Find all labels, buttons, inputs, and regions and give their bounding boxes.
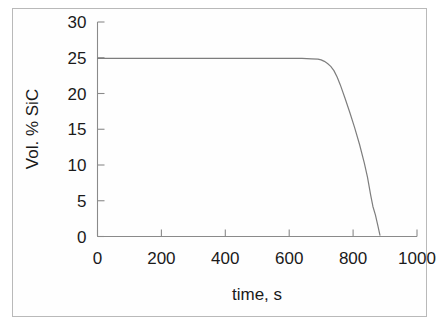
x-tick-label: 400 bbox=[211, 249, 239, 268]
y-tick-label: 10 bbox=[68, 156, 87, 175]
data-series-group bbox=[98, 58, 380, 235]
y-tick-label: 20 bbox=[68, 85, 87, 104]
x-tick-label: 0 bbox=[93, 249, 102, 268]
data-series-line bbox=[98, 58, 380, 235]
y-axis-title: Vol. % SiC bbox=[23, 89, 42, 169]
x-axis-title: time, s bbox=[232, 285, 282, 304]
y-tick-label: 5 bbox=[77, 192, 86, 211]
x-tick-label: 600 bbox=[275, 249, 303, 268]
x-tick-label: 800 bbox=[339, 249, 367, 268]
y-axis-ticks bbox=[98, 22, 105, 237]
x-axis-tick-labels: 02004006008001000 bbox=[93, 249, 436, 268]
x-tick-label: 200 bbox=[147, 249, 175, 268]
x-axis-ticks bbox=[98, 230, 418, 237]
line-chart: 051015202530 02004006008001000 time, s V… bbox=[0, 0, 441, 326]
y-tick-label: 15 bbox=[68, 120, 87, 139]
y-axis-tick-labels: 051015202530 bbox=[68, 13, 87, 247]
y-tick-label: 0 bbox=[77, 228, 86, 247]
y-tick-label: 30 bbox=[68, 13, 87, 32]
axes-group bbox=[98, 22, 418, 237]
x-tick-label: 1000 bbox=[398, 249, 436, 268]
figure-container: 051015202530 02004006008001000 time, s V… bbox=[0, 0, 441, 326]
y-tick-label: 25 bbox=[68, 49, 87, 68]
